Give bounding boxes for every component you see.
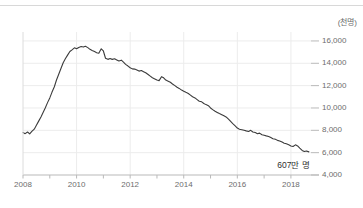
- x-tick-label: 2012: [121, 180, 139, 189]
- end-value-annotation: 607만 명: [277, 158, 310, 170]
- x-tick-label: 2010: [68, 180, 86, 189]
- y-tick-label: 12,000: [322, 81, 346, 90]
- y-tick-label: 16,000: [322, 36, 346, 45]
- y-tick-label: 8,000: [322, 125, 342, 134]
- x-tick-label: 2008: [14, 180, 32, 189]
- y-tick-label: 4,000: [322, 170, 342, 179]
- y-tick-label: 10,000: [322, 103, 346, 112]
- series-line-path: [23, 46, 309, 152]
- y-tick-label: 14,000: [322, 58, 346, 67]
- chart-container: (천명) 4,0006,0008,00010,00012,00014,00016…: [0, 0, 363, 208]
- x-tick-marks-group: [23, 41, 319, 179]
- x-tick-label: 2014: [175, 180, 193, 189]
- line-chart-svg: [0, 0, 363, 208]
- gridlines-group: [23, 32, 311, 175]
- x-tick-label: 2018: [282, 180, 300, 189]
- x-tick-label: 2016: [228, 180, 246, 189]
- y-tick-label: 6,000: [322, 148, 342, 157]
